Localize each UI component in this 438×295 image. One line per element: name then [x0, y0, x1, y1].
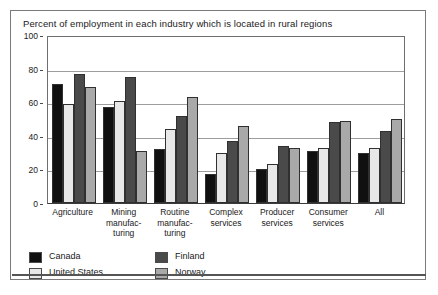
bar	[165, 129, 176, 203]
x-tick-label: All	[348, 207, 411, 218]
y-tick-label-100: 100	[24, 31, 38, 41]
legend-divider	[12, 274, 426, 276]
y-tick-mark-0	[40, 204, 43, 205]
bar-group	[103, 37, 147, 203]
bar	[267, 164, 278, 203]
y-tick-label-0: 0	[33, 199, 38, 209]
bar	[74, 74, 85, 203]
y-tick-mark-100	[40, 36, 43, 37]
bar	[278, 146, 289, 203]
y-tick-mark-60	[40, 103, 43, 104]
bar-group	[205, 37, 249, 203]
bar	[227, 141, 238, 203]
bar	[176, 116, 187, 203]
bar	[358, 153, 369, 203]
bar	[187, 97, 198, 203]
y-tick-label-40: 40	[29, 132, 38, 142]
legend-label: Finland	[175, 251, 205, 261]
bar-group	[307, 37, 351, 203]
bar	[125, 77, 136, 203]
bar	[63, 104, 74, 203]
bar-group	[358, 37, 402, 203]
y-tick-label-20: 20	[29, 165, 38, 175]
x-tick-label-line: turing	[143, 228, 206, 239]
x-tick-label-line: All	[348, 207, 411, 218]
bar	[391, 119, 402, 203]
bar	[289, 148, 300, 203]
legend-swatch	[29, 252, 42, 263]
y-tick-label-60: 60	[29, 98, 38, 108]
legend-label: Canada	[49, 251, 81, 261]
bar	[369, 148, 380, 203]
bar-group	[154, 37, 198, 203]
bar	[52, 84, 63, 203]
y-tick-mark-80	[40, 70, 43, 71]
bar-group	[256, 37, 300, 203]
x-tick-label-line: services	[297, 218, 360, 229]
bar	[307, 151, 318, 203]
y-tick-mark-20	[40, 170, 43, 171]
bar	[154, 149, 165, 203]
bars-layer	[48, 37, 404, 203]
plot-area	[47, 36, 405, 204]
legend-swatch	[155, 252, 168, 263]
bar	[103, 107, 114, 203]
bar	[136, 151, 147, 203]
bar	[114, 101, 125, 203]
bar-group	[52, 37, 96, 203]
y-axis: 020406080100	[11, 36, 43, 204]
chart-figure: Percent of employment in each industry w…	[10, 10, 426, 280]
bar	[329, 122, 340, 203]
bar	[216, 153, 227, 203]
chart-title: Percent of employment in each industry w…	[23, 18, 332, 29]
bar	[380, 131, 391, 203]
x-axis-labels: AgricultureMiningmanufac-turingRoutinema…	[47, 207, 405, 247]
y-tick-mark-40	[40, 137, 43, 138]
bar	[85, 87, 96, 203]
bar	[318, 148, 329, 203]
bar	[256, 169, 267, 203]
bar	[340, 121, 351, 203]
y-tick-label-80: 80	[29, 65, 38, 75]
bar	[205, 174, 216, 203]
chart-legend: CanadaUnited StatesFinlandNorway	[29, 251, 269, 285]
bar	[238, 126, 249, 203]
